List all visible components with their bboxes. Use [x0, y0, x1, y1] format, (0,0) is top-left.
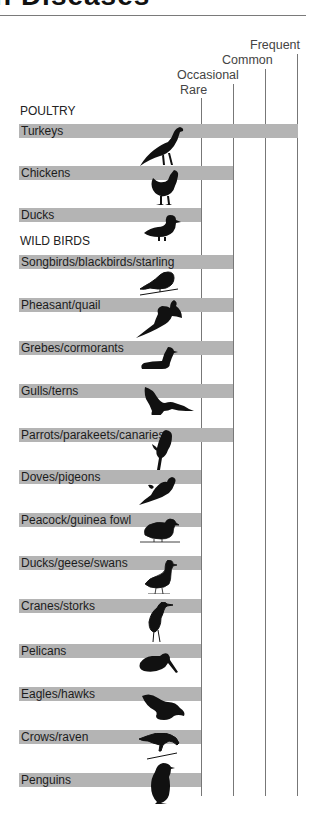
bar-label: Pheasant/quail [21, 298, 100, 312]
bar-label: Ducks [21, 208, 54, 222]
bar-label: Eagles/hawks [21, 687, 95, 701]
dove-icon [138, 475, 178, 505]
level-label-frequent: Frequent [250, 38, 300, 52]
level-label-common: Common [222, 53, 273, 67]
bar-label: Cranes/storks [21, 599, 95, 613]
section-heading-wild-birds: WILD BIRDS [20, 234, 90, 248]
page-title-fragment: n Diseases [0, 0, 150, 12]
bar-label: Turkeys [21, 124, 63, 138]
bar-label: Doves/pigeons [21, 470, 100, 484]
turkey-icon [140, 125, 186, 167]
duck-icon [144, 213, 182, 243]
bar-grebes: Grebes/cormorants [19, 341, 233, 355]
crow-icon [137, 733, 181, 761]
pheasant-icon [134, 300, 184, 338]
gull-icon [143, 385, 195, 415]
guinea-fowl-icon [140, 517, 180, 543]
bar-songbirds: Songbirds/blackbirds/starling [19, 255, 233, 269]
bar-gulls: Gulls/terns [19, 384, 233, 398]
songbird-icon [138, 271, 180, 297]
level-label-occasional: Occasional [177, 68, 239, 82]
bar-chickens: Chickens [19, 166, 233, 180]
bar-label: Gulls/terns [21, 384, 78, 398]
section-heading-poultry: POULTRY [20, 104, 76, 118]
level-label-rare: Rare [180, 83, 207, 97]
bar-pheasant: Pheasant/quail [19, 298, 233, 312]
gridline-rare [201, 98, 202, 796]
bar-parrots: Parrots/parakeets/canaries [19, 428, 233, 442]
bar-label: Pelicans [21, 644, 66, 658]
bar-label: Penguins [21, 773, 71, 787]
penguin-icon [147, 763, 177, 805]
bar-label: Crows/raven [21, 730, 88, 744]
gridline-occasional [233, 84, 234, 796]
bar-label: Peacock/guinea fowl [21, 513, 131, 527]
crane-icon [146, 602, 174, 642]
bar-label: Chickens [21, 166, 70, 180]
bar-label: Grebes/cormorants [21, 341, 124, 355]
gridline-frequent [297, 54, 298, 796]
bar-label: Parrots/parakeets/canaries [21, 428, 164, 442]
eagle-icon [140, 692, 186, 722]
title-rule [0, 15, 306, 16]
bar-label: Songbirds/blackbirds/starling [21, 255, 174, 269]
bar-label: Ducks/geese/swans [21, 556, 128, 570]
grebe-icon [140, 345, 178, 371]
goose-icon [144, 560, 178, 594]
chicken-icon [148, 170, 180, 206]
pelican-icon [138, 652, 180, 676]
parrot-icon [150, 430, 174, 472]
gridline-common [265, 69, 266, 796]
